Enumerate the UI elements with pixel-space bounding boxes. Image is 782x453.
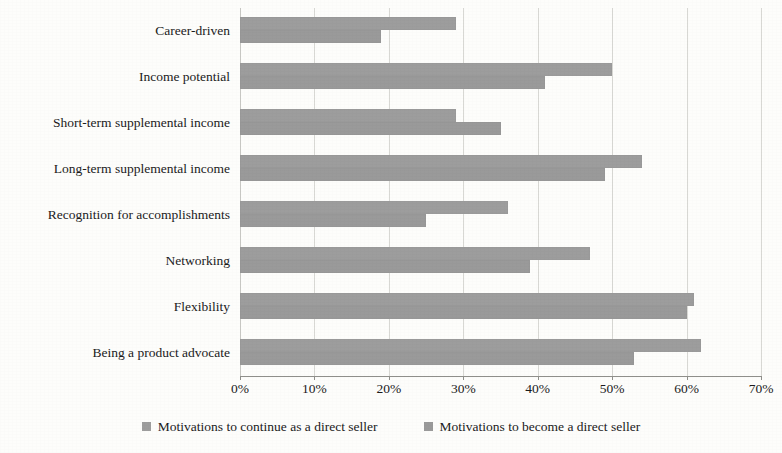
bar-become [240,260,530,273]
tick-label: 20% [359,382,419,396]
category-label: Networking [2,254,230,268]
tick-label: 0% [210,382,270,396]
legend-label: Motivations to become a direct seller [440,420,641,434]
chart-row: Flexibility [240,284,761,330]
tick-label: 70% [731,382,782,396]
bar-become [240,76,545,89]
legend-swatch-icon [142,422,151,431]
tick-mark [389,376,390,380]
bar-continue [240,339,701,352]
bar-continue [240,293,694,306]
plot-area: Career-drivenIncome potentialShort-term … [240,8,761,376]
chart-row: Networking [240,238,761,284]
tick-label: 40% [508,382,568,396]
bar-become [240,306,687,319]
bar-continue [240,155,642,168]
bar-become [240,168,605,181]
chart-row: Recognition for accomplishments [240,192,761,238]
tick-mark [761,376,762,380]
bar-continue [240,247,590,260]
legend-item: Motivations to continue as a direct sell… [142,420,378,434]
category-label: Income potential [2,70,230,84]
tick-label: 50% [582,382,642,396]
legend-item: Motivations to become a direct seller [424,420,641,434]
gridline-70% [761,8,762,376]
category-label: Flexibility [2,300,230,314]
chart-row: Long-term supplemental income [240,146,761,192]
bar-continue [240,63,612,76]
tick-mark [314,376,315,380]
chart-row: Income potential [240,54,761,100]
chart-row: Short-term supplemental income [240,100,761,146]
legend-label: Motivations to continue as a direct sell… [158,420,378,434]
tick-label: 30% [433,382,493,396]
tick-label: 10% [284,382,344,396]
bar-become [240,30,381,43]
tick-mark [612,376,613,380]
category-label: Recognition for accomplishments [2,208,230,222]
category-label: Being a product advocate [2,346,230,360]
category-label: Career-driven [2,24,230,38]
category-label: Short-term supplemental income [2,116,230,130]
tick-mark [463,376,464,380]
chart-legend: Motivations to continue as a direct sell… [0,420,782,434]
x-axis-line [240,376,762,377]
legend-swatch-icon [424,422,433,431]
chart-row: Being a product advocate [240,330,761,376]
tick-mark [538,376,539,380]
horizontal-bar-chart: Career-drivenIncome potentialShort-term … [0,0,782,453]
category-label: Long-term supplemental income [2,162,230,176]
bar-become [240,214,426,227]
bar-become [240,352,634,365]
bar-continue [240,109,456,122]
bar-continue [240,201,508,214]
chart-row: Career-driven [240,8,761,54]
tick-mark [687,376,688,380]
tick-label: 60% [657,382,717,396]
bar-continue [240,17,456,30]
bar-become [240,122,501,135]
tick-mark [240,376,241,380]
